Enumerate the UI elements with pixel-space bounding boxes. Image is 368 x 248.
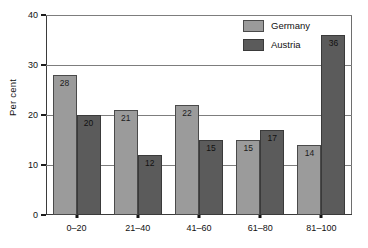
bar-value-label: 36 bbox=[322, 39, 344, 48]
x-axis-tick-label: 41–60 bbox=[186, 224, 211, 233]
x-axis-tick-label: 81–100 bbox=[306, 224, 336, 233]
y-axis-tick-label: 0 bbox=[33, 211, 38, 220]
x-axis-tick bbox=[259, 215, 262, 218]
y-axis-tick-label: 40 bbox=[28, 11, 38, 20]
bar-value-label: 20 bbox=[78, 119, 100, 128]
y-axis-tick-label: 10 bbox=[28, 161, 38, 170]
bar-germany-21-40: 21 bbox=[114, 110, 138, 215]
x-axis-tick bbox=[136, 215, 139, 218]
bar-austria-21-40: 12 bbox=[138, 155, 162, 215]
bar-germany-0-20: 28 bbox=[53, 75, 77, 215]
bar-value-label: 12 bbox=[139, 159, 161, 168]
bar-austria-81-100: 36 bbox=[321, 35, 345, 215]
bar-germany-61-80: 15 bbox=[236, 140, 260, 215]
bar-austria-61-80: 17 bbox=[260, 130, 284, 215]
bar-chart-figure: Per cent 010203040 28202112221515171436 … bbox=[0, 0, 368, 248]
y-axis-title: Per cent bbox=[7, 63, 18, 133]
legend-label: Germany bbox=[271, 21, 310, 31]
legend-entry-germany[interactable]: Germany bbox=[243, 20, 310, 32]
x-axis-tick bbox=[75, 215, 78, 218]
bar-value-label: 15 bbox=[237, 144, 259, 153]
legend-swatch-icon bbox=[243, 20, 264, 32]
bar-value-label: 28 bbox=[54, 79, 76, 88]
x-axis-tick-label: 0–20 bbox=[67, 224, 87, 233]
bar-germany-41-60: 22 bbox=[175, 105, 199, 215]
bar-austria-0-20: 20 bbox=[77, 115, 101, 215]
x-axis-tick-label: 61–80 bbox=[248, 224, 273, 233]
bar-value-label: 21 bbox=[115, 114, 137, 123]
x-axis-tick bbox=[198, 215, 201, 218]
chart-legend: GermanyAustria bbox=[243, 20, 310, 58]
x-axis-tick bbox=[320, 215, 323, 218]
x-axis-tick-label: 21–40 bbox=[125, 224, 150, 233]
bar-value-label: 22 bbox=[176, 109, 198, 118]
bar-value-label: 14 bbox=[298, 149, 320, 158]
y-axis-tick-label: 30 bbox=[28, 61, 38, 70]
y-axis-tick-label: 20 bbox=[28, 111, 38, 120]
bar-value-label: 15 bbox=[200, 144, 222, 153]
legend-entry-austria[interactable]: Austria bbox=[243, 39, 310, 51]
bar-germany-81-100: 14 bbox=[297, 145, 321, 215]
legend-label: Austria bbox=[271, 40, 301, 50]
bar-austria-41-60: 15 bbox=[199, 140, 223, 215]
legend-swatch-icon bbox=[243, 39, 264, 51]
bar-value-label: 17 bbox=[261, 134, 283, 143]
